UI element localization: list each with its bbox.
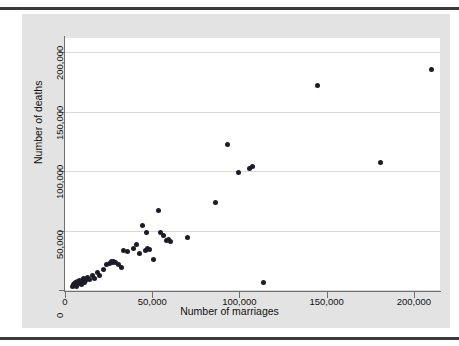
y-tick-label: 50,000 bbox=[54, 230, 65, 259]
top-divider-rule bbox=[0, 7, 459, 10]
y-tick-label: 150,000 bbox=[54, 105, 65, 139]
scatter-point bbox=[125, 249, 130, 254]
bottom-divider-rule bbox=[0, 337, 459, 340]
scatter-point bbox=[147, 247, 152, 252]
scatter-point bbox=[213, 200, 218, 205]
scatter-point bbox=[97, 273, 102, 278]
plot-area bbox=[65, 38, 440, 290]
scatter-point bbox=[378, 160, 383, 165]
gridline-horizontal bbox=[65, 112, 440, 113]
x-axis-line bbox=[64, 291, 441, 292]
y-axis-title: Number of deaths bbox=[32, 81, 44, 164]
gridline-horizontal bbox=[65, 52, 440, 53]
scatter-point bbox=[250, 164, 255, 169]
scatter-plot-figure: 050,000100,000150,000200,000 050,000100,… bbox=[0, 0, 459, 346]
scatter-point bbox=[261, 280, 266, 285]
scatter-point bbox=[144, 230, 149, 235]
scatter-point bbox=[134, 242, 139, 247]
scatter-point bbox=[151, 257, 156, 262]
scatter-point bbox=[168, 239, 173, 244]
scatter-point bbox=[137, 251, 142, 256]
scatter-point bbox=[315, 83, 320, 88]
x-axis-title: Number of marriages bbox=[0, 305, 459, 317]
y-tick-label: 100,000 bbox=[54, 165, 65, 199]
scatter-point bbox=[185, 235, 190, 240]
scatter-point bbox=[156, 208, 161, 213]
y-tick-label: 200,000 bbox=[54, 46, 65, 80]
scatter-point bbox=[119, 265, 124, 270]
scatter-point bbox=[429, 67, 434, 72]
scatter-point bbox=[101, 267, 106, 272]
scatter-point bbox=[225, 142, 230, 147]
scatter-point bbox=[140, 223, 145, 228]
y-tick-mark bbox=[59, 290, 65, 291]
plot-frame bbox=[65, 38, 440, 290]
scatter-point bbox=[236, 170, 241, 175]
gridline-horizontal bbox=[65, 171, 440, 172]
gridline-horizontal bbox=[65, 231, 440, 232]
